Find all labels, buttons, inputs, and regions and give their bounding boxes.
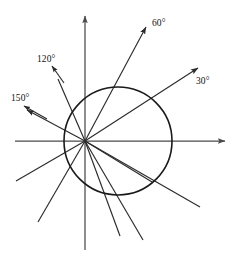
label-60-degrees: 60° bbox=[152, 18, 166, 28]
label-30-degrees: 30° bbox=[196, 76, 210, 86]
polar-diagram: 30° 60° 120° 150° bbox=[0, 0, 239, 258]
label-120-degrees: 120° bbox=[37, 54, 56, 64]
figure-background bbox=[0, 0, 239, 258]
label-150-degrees: 150° bbox=[11, 93, 30, 103]
